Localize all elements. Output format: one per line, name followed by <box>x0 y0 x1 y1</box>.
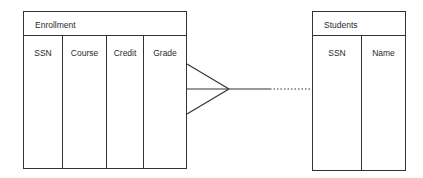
crows-foot-icon <box>187 64 229 114</box>
relationship-connector <box>0 0 423 178</box>
